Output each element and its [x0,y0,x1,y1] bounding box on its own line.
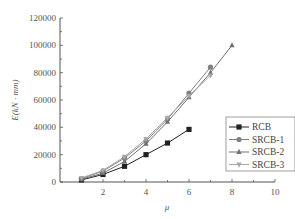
series-line [82,67,211,178]
x-tick-label: 8 [230,187,235,197]
legend-label: RCB [252,122,271,132]
square-marker [165,140,170,145]
x-tick-label: 2 [101,187,106,197]
x-tick-label: 4 [144,187,149,197]
series-srcb-1 [79,65,213,182]
y-tick-label: 20000 [34,150,57,160]
x-axis-label: μ [164,202,170,212]
circle-marker [208,65,213,70]
series-srcb-2 [79,42,235,181]
y-tick-label: 60000 [34,95,57,105]
square-marker [122,164,127,169]
x-tick-label: 10 [271,187,281,197]
legend-label: SRCB-1 [252,135,284,145]
square-marker [236,124,241,129]
legend-label: SRCB-3 [252,160,284,170]
series-rcb [79,127,192,183]
y-tick-label: 40000 [34,122,57,132]
legend-label: SRCB-2 [252,147,284,157]
legend: RCBSRCB-1SRCB-2SRCB-3 [226,117,295,171]
triangle-up-marker [229,42,234,47]
y-axis-label: E(kN · mm) [10,79,20,121]
square-marker [186,127,191,132]
y-tick-label: 100000 [29,40,57,50]
chart: 020000400006000080000100000120000246810 … [0,0,295,219]
series-srcb-3 [79,73,213,181]
y-tick-label: 120000 [29,13,57,23]
x-tick-label: 6 [187,187,192,197]
series-layer [79,42,235,182]
y-tick-label: 80000 [34,68,57,78]
square-marker [143,152,148,157]
circle-marker [236,137,241,142]
y-tick-label: 0 [52,177,57,187]
